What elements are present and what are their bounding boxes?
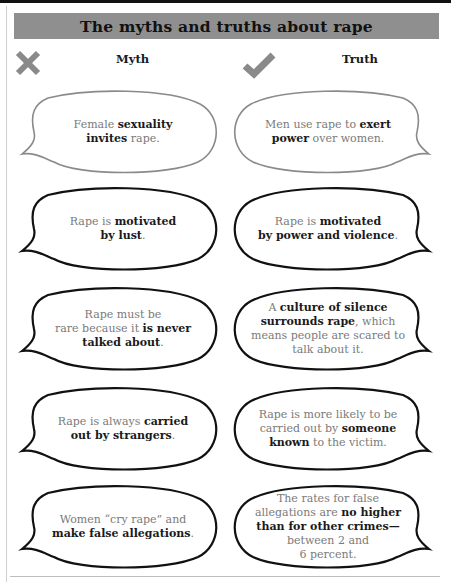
plain-text: Female	[74, 118, 118, 131]
myth-bubble-2: Rape is motivatedby lust.	[18, 187, 218, 271]
myth-statement: Rape is always carriedout by strangers.	[46, 387, 200, 471]
myth-statement: Women “cry rape” andmake false allegatio…	[46, 485, 200, 569]
plain-text: means people are scared to	[251, 329, 405, 342]
plain-text: A	[268, 301, 279, 314]
myth-column-header: Myth	[116, 52, 149, 66]
plain-text: .	[190, 527, 194, 540]
emphasis-text: invites	[86, 132, 127, 145]
x-mark-icon	[14, 49, 42, 77]
statement-line: The rates for false	[255, 492, 401, 506]
statement-line: means people are scared to	[251, 329, 405, 343]
statement-line: than for other crimes—	[255, 520, 401, 534]
truth-statement: Men use rape to exertpower over women.	[251, 90, 405, 174]
emphasis-text: power	[272, 132, 309, 145]
top-rule	[0, 0, 451, 3]
plain-text: The rates for false	[277, 492, 379, 505]
plain-text: Rape is always	[58, 415, 144, 428]
emphasis-text: by power and violence	[258, 229, 394, 242]
plain-text: Rape is	[275, 215, 320, 228]
emphasis-text: motivated	[320, 215, 382, 228]
plain-text: Women “cry rape” and	[60, 513, 187, 526]
check-mark-icon	[241, 49, 277, 79]
plain-text: allegations are	[255, 506, 341, 519]
statement-line: make false allegations.	[52, 527, 194, 541]
emphasis-text: make false allegations	[52, 527, 190, 540]
statement-line: Rape is always carried	[58, 415, 189, 429]
emphasis-text: motivated	[115, 215, 177, 228]
truth-statement: The rates for falseallegations are no hi…	[251, 485, 405, 569]
page-title: The myths and truths about rape	[80, 17, 373, 36]
infographic-page: The myths and truths about rape Myth Tru…	[0, 0, 451, 582]
truth-bubble-2: Rape is motivatedby power and violence.	[233, 187, 433, 271]
statement-line: surrounds rape, which	[251, 315, 405, 329]
emphasis-text: than for other crimes—	[256, 520, 399, 533]
statement-line: talked about.	[55, 336, 191, 350]
myth-label: Myth	[116, 52, 149, 66]
truth-label: Truth	[342, 52, 378, 66]
statement-line: out by strangers.	[58, 429, 189, 443]
emphasis-text: culture of silence	[280, 301, 388, 314]
title-bar: The myths and truths about rape	[14, 13, 439, 39]
statement-line: Rape must be	[55, 308, 191, 322]
plain-text: .	[172, 429, 176, 442]
plain-text: between 2 and	[287, 534, 369, 547]
plain-text: Rape is more likely to be	[259, 408, 398, 421]
statement-line: A culture of silence	[251, 301, 405, 315]
truth-bubble-3: A culture of silencesurrounds rape, whic…	[233, 287, 433, 371]
myth-bubble-1: Female sexualityinvites rape.	[18, 90, 218, 174]
plain-text: Men use rape to	[265, 118, 360, 131]
statement-line: talk about it.	[251, 343, 405, 357]
plain-text: , which	[355, 315, 395, 328]
plain-text: rape.	[127, 132, 159, 145]
emphasis-text: no higher	[341, 506, 401, 519]
myth-statement: Female sexualityinvites rape.	[46, 90, 200, 174]
statement-line: by power and violence.	[258, 229, 398, 243]
myth-statement: Rape must berare because it is nevertalk…	[46, 287, 200, 371]
truth-statement: A culture of silencesurrounds rape, whic…	[251, 287, 405, 371]
statement-line: by lust.	[70, 229, 176, 243]
statement-line: 6 percent.	[255, 548, 401, 562]
emphasis-text: by lust	[101, 229, 142, 242]
myth-statement: Rape is motivatedby lust.	[46, 187, 200, 271]
plain-text: Rape is	[70, 215, 115, 228]
emphasis-text: exert	[360, 118, 391, 131]
plain-text: Rape must be	[85, 308, 162, 321]
emphasis-text: out by strangers	[71, 429, 172, 442]
plain-text: over women.	[309, 132, 384, 145]
truth-bubble-1: Men use rape to exertpower over women.	[233, 90, 433, 174]
plain-text: .	[142, 229, 146, 242]
truth-column-header: Truth	[342, 52, 378, 66]
statement-line: Female sexuality	[74, 118, 173, 132]
statement-line: Women “cry rape” and	[52, 513, 194, 527]
statement-line: Rape is more likely to be	[259, 408, 398, 422]
statement-line: between 2 and	[255, 534, 401, 548]
myth-bubble-5: Women “cry rape” andmake false allegatio…	[18, 485, 218, 569]
left-rule	[6, 6, 7, 582]
emphasis-text: is never	[143, 322, 191, 335]
emphasis-text: talked about	[82, 336, 160, 349]
statement-line: invites rape.	[74, 132, 173, 146]
emphasis-text: sexuality	[118, 118, 173, 131]
emphasis-text: known	[269, 436, 309, 449]
plain-text: to the victim.	[310, 436, 387, 449]
truth-statement: Rape is motivatedby power and violence.	[251, 187, 405, 271]
statement-line: allegations are no higher	[255, 506, 401, 520]
truth-bubble-5: The rates for falseallegations are no hi…	[233, 485, 433, 569]
truth-statement: Rape is more likely to becarried out by …	[251, 387, 405, 471]
plain-text: carried out by	[260, 422, 342, 435]
statement-line: rare because it is never	[55, 322, 191, 336]
statement-line: carried out by someone	[259, 422, 398, 436]
emphasis-text: carried	[144, 415, 188, 428]
myth-bubble-3: Rape must berare because it is nevertalk…	[18, 287, 218, 371]
emphasis-text: surrounds rape	[261, 315, 355, 328]
plain-text: talk about it.	[292, 343, 363, 356]
bottom-rule	[10, 576, 440, 577]
plain-text: 6 percent.	[300, 548, 357, 561]
emphasis-text: someone	[342, 422, 397, 435]
plain-text: rare because it	[55, 322, 143, 335]
statement-line: Rape is motivated	[258, 215, 398, 229]
plain-text: .	[160, 336, 164, 349]
statement-line: power over women.	[265, 132, 391, 146]
statement-line: Rape is motivated	[70, 215, 176, 229]
statement-line: known to the victim.	[259, 436, 398, 450]
